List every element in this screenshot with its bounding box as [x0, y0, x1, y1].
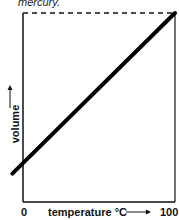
y-axis-label: volume [9, 105, 21, 144]
x-tick-label: 0 [21, 206, 27, 218]
y-axis-arrow-head [8, 85, 13, 90]
x-tick-label: 100 [160, 206, 178, 218]
chart-area [0, 0, 179, 220]
data-line [12, 13, 175, 174]
x-axis-arrow-head [146, 210, 151, 215]
x-axis-label: temperature °C [48, 206, 127, 218]
